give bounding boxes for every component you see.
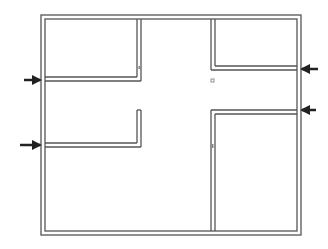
floor-plan [0, 0, 328, 249]
top-right-room-walls [211, 19, 297, 70]
column-marker [211, 79, 214, 82]
bottom-right-room-walls [211, 110, 297, 231]
door-marker [139, 66, 141, 69]
top-left-room-walls [45, 19, 141, 81]
bottom-left-room-walls [45, 110, 141, 147]
door-marker [212, 144, 214, 148]
outer-wall [41, 15, 301, 235]
